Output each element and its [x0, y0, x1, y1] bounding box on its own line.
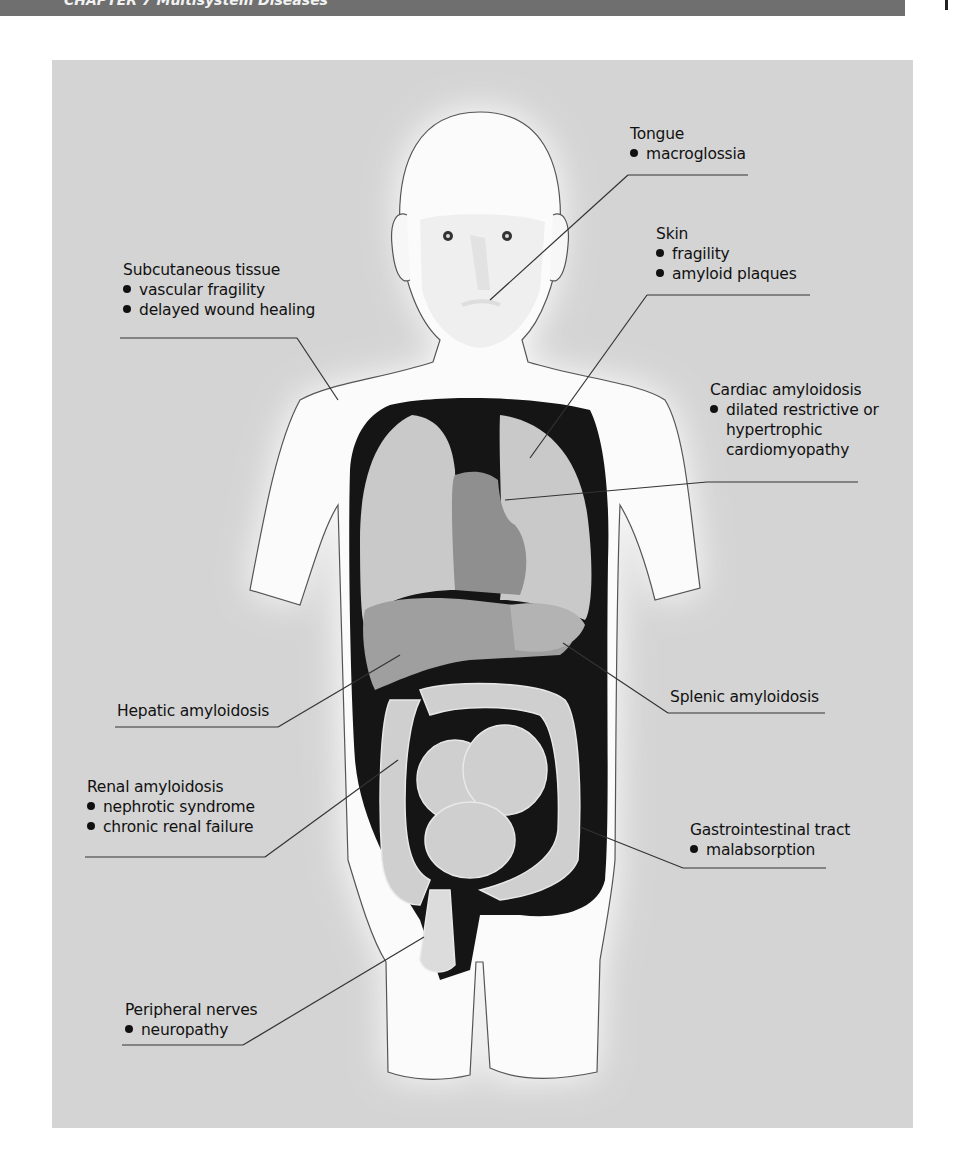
callout-peripheral-nerves: Peripheral nerves neuropathy: [125, 1000, 257, 1040]
callout-gastrointestinal-tract: Gastrointestinal tract malabsorption: [690, 820, 850, 860]
callout-title: Subcutaneous tissue: [123, 260, 315, 280]
callout-skin: Skin fragility amyloid plaques: [656, 224, 797, 284]
callout-hepatic-amyloidosis: Hepatic amyloidosis: [117, 701, 269, 721]
callout-item: neuropathy: [125, 1020, 257, 1040]
callout-item: amyloid plaques: [656, 264, 797, 284]
callout-title: Renal amyloidosis: [87, 777, 255, 797]
callout-item: chronic renal failure: [87, 817, 255, 837]
callout-tongue: Tongue macroglossia: [630, 124, 746, 164]
callout-title: Skin: [656, 224, 797, 244]
callout-item: malabsorption: [690, 840, 850, 860]
callout-item: macroglossia: [630, 144, 746, 164]
callout-subcutaneous-tissue: Subcutaneous tissue vascular fragility d…: [123, 260, 315, 320]
callout-renal-amyloidosis: Renal amyloidosis nephrotic syndrome chr…: [87, 777, 255, 837]
callout-item-continuation: hypertrophic: [710, 420, 879, 440]
callout-title: Gastrointestinal tract: [690, 820, 850, 840]
callout-cardiac-amyloidosis: Cardiac amyloidosis dilated restrictive …: [710, 380, 879, 460]
callout-title: Cardiac amyloidosis: [710, 380, 879, 400]
callout-title: Peripheral nerves: [125, 1000, 257, 1020]
callout-item: fragility: [656, 244, 797, 264]
callout-title: Splenic amyloidosis: [670, 687, 819, 707]
callout-item: vascular fragility: [123, 280, 315, 300]
callout-item: delayed wound healing: [123, 300, 315, 320]
callout-item: dilated restrictive or: [710, 400, 879, 420]
callout-item: nephrotic syndrome: [87, 797, 255, 817]
callout-title: Hepatic amyloidosis: [117, 701, 269, 721]
callout-title: Tongue: [630, 124, 746, 144]
callout-splenic-amyloidosis: Splenic amyloidosis: [670, 687, 819, 707]
callout-item-continuation: cardiomyopathy: [710, 440, 879, 460]
body-illustration: [0, 0, 954, 1164]
